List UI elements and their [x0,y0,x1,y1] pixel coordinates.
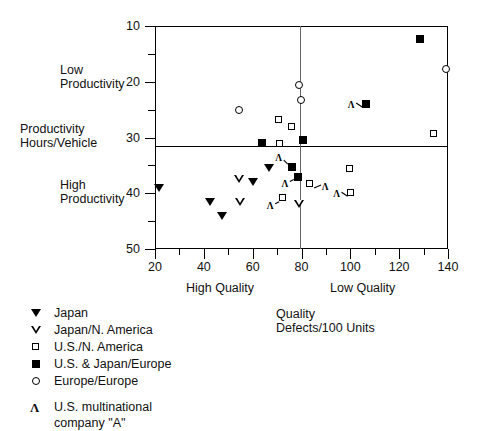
annotation-label: Λ [267,201,274,211]
y-tick-label: 40 [110,187,140,199]
legend-label: U.S./N. America [54,339,143,356]
annotation-leader-line [314,185,321,188]
y-tick-major [145,82,155,83]
annotation-label: Λ [275,153,282,163]
y-axis-title: Productivity [20,122,97,136]
x-tick-major [155,249,156,259]
legend-spacer [28,390,171,399]
x-tick-label: 20 [135,261,175,273]
annotation-leader-line [275,202,279,204]
arrow-marker-icon: Λ [28,399,44,416]
y-tick-minor [148,165,155,166]
annotation-label: Λ [322,182,329,192]
x-tick-minor [179,249,180,255]
legend-label: Japan [54,305,88,322]
us-japan-europe-marker-icon [28,356,44,373]
x-tick-label: 40 [184,261,224,273]
annotation-leader-line [284,160,288,164]
high-quality-label: High Quality [186,281,254,295]
europe-europe-marker-icon [28,373,44,390]
x-tick-label: 120 [379,261,419,273]
us-na-marker-icon [28,339,44,356]
y-tick-label: 10 [110,20,140,32]
legend-annotation-line2: company "A" [54,416,171,431]
japan-na-marker-icon [28,322,44,339]
x-tick-minor [277,249,278,255]
annotation-label: Λ [281,179,288,189]
annotation-label: Λ [348,100,355,110]
legend-item: Japan [28,305,171,322]
x-tick-major [448,249,449,259]
annotation-arrows: ΛΛΛΛΛΛ [155,26,448,249]
annotation-leader-line [356,103,362,107]
y-tick-minor [148,110,155,111]
y-tick-major [145,26,155,27]
y-axis-title-block: Productivity Hours/Vehicle [20,122,97,150]
y-tick-label: 30 [110,132,140,144]
y-axis-subtitle: Hours/Vehicle [20,136,97,150]
x-axis-subtitle: Defects/100 Units [276,321,375,335]
x-tick-major [204,249,205,259]
x-tick-major [302,249,303,259]
legend-label: Europe/Europe [54,373,138,390]
x-tick-major [350,249,351,259]
x-tick-major [399,249,400,259]
x-tick-major [253,249,254,259]
y-tick-minor [148,54,155,55]
legend-item: Japan/N. America [28,322,171,339]
x-tick-minor [375,249,376,255]
annotation-label: Λ [333,189,340,199]
y-tick-major [145,138,155,139]
x-tick-minor [424,249,425,255]
x-tick-label: 140 [428,261,468,273]
low-quality-label: Low Quality [330,281,395,295]
legend-annotation-line1: U.S. multinational [54,399,152,416]
y-tick-major [145,249,155,250]
legend-item: Europe/Europe [28,373,171,390]
legend-label: Japan/N. America [54,322,153,339]
annotation-leader-line [290,180,294,182]
legend-item-annotation: Λ U.S. multinational [28,399,171,416]
x-tick-minor [326,249,327,255]
legend: Japan Japan/N. America U.S./N. America U… [28,305,171,431]
legend-item: U.S. & Japan/Europe [28,356,171,373]
x-tick-label: 80 [282,261,322,273]
y-tick-label: 20 [110,76,140,88]
annotation-leader-line [342,192,348,196]
x-axis-title: Quality [276,307,375,321]
legend-label: U.S. & Japan/Europe [54,356,171,373]
y-tick-minor [148,221,155,222]
y-tick-major [145,193,155,194]
japan-marker-icon [28,305,44,322]
x-tick-minor [228,249,229,255]
x-axis-title-block: Quality Defects/100 Units [276,307,375,335]
x-tick-label: 100 [330,261,370,273]
x-tick-label: 60 [233,261,273,273]
legend-item: U.S./N. America [28,339,171,356]
y-tick-label: 50 [110,243,140,255]
